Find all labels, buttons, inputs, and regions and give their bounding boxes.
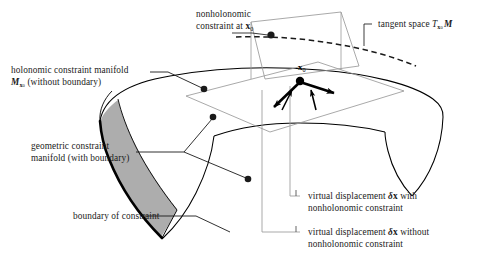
label-virtual-displacement-with-prefix: virtual displacement <box>308 191 388 201</box>
label-virtual-displacement-without: virtual displacement δx without nonholon… <box>308 226 429 250</box>
label-holonomic-manifold-line2: Mx0 (without boundary) <box>11 76 129 88</box>
label-nonholonomic-constraint-line1: nonholonomic <box>196 8 253 20</box>
label-boundary-of-constraint: boundary of constraint <box>73 210 159 222</box>
label-tangent-space-prefix: tangent space <box>378 19 432 29</box>
figure-canvas: nonholonomic constraint at x0 tangent sp… <box>0 0 498 270</box>
label-tangent-space-manifold: M <box>444 19 452 29</box>
label-point-x0-var: x <box>298 62 303 72</box>
label-tangent-space-sub-sub: 0 <box>441 25 443 30</box>
label-virtual-displacement-with: virtual displacement δx with nonholonomi… <box>308 190 417 214</box>
label-holonomic-manifold-subsub: 0 <box>23 83 25 88</box>
label-nonholonomic-constraint-line2: constraint at x0 <box>196 20 253 32</box>
label-holonomic-manifold-rest: (without boundary) <box>25 77 101 87</box>
nonholonomic-constraint-curve <box>236 37 416 66</box>
label-nonholonomic-constraint-sub: 0 <box>250 25 253 32</box>
label-geometric-manifold: geometric constraint manifold (with boun… <box>31 140 129 164</box>
label-virtual-displacement-with-suffix: with <box>398 191 417 201</box>
label-holonomic-manifold: holonomic constraint manifold Mx0 (witho… <box>11 64 129 88</box>
label-virtual-displacement-with-line2: nonholonomic constraint <box>308 202 417 214</box>
label-virtual-displacement-without-suffix: without <box>398 227 430 237</box>
label-geometric-manifold-line2: manifold (with boundary) <box>31 152 129 164</box>
label-nonholonomic-constraint-line2-prefix: constraint at <box>196 21 245 31</box>
point-x0-marker <box>296 77 304 85</box>
label-nonholonomic-constraint: nonholonomic constraint at x0 <box>196 8 253 32</box>
label-boundary-of-constraint-line1: boundary of constraint <box>73 210 159 222</box>
label-virtual-displacement-without-prefix: virtual displacement <box>308 227 388 237</box>
label-virtual-displacement-without-line1: virtual displacement δx without <box>308 226 429 238</box>
label-point-x0: x0 <box>298 62 306 72</box>
label-virtual-displacement-without-line2: nonholonomic constraint <box>308 238 429 250</box>
label-virtual-displacement-with-line1: virtual displacement δx with <box>308 190 417 202</box>
label-point-x0-sub: 0 <box>303 66 306 73</box>
label-geometric-manifold-line1: geometric constraint <box>31 140 129 152</box>
label-holonomic-manifold-line1: holonomic constraint manifold <box>11 64 129 76</box>
label-tangent-space: tangent space Tx0M <box>378 18 452 30</box>
